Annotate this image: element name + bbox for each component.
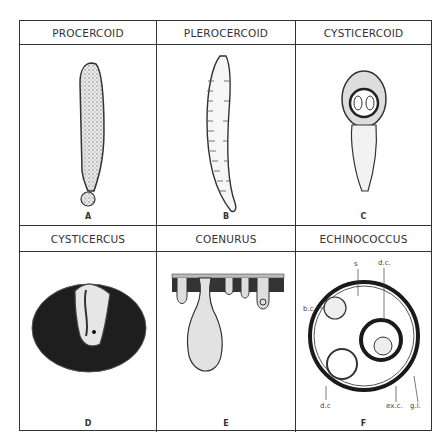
cysticercoid-illustration [296, 21, 431, 226]
larval-stages-figure: PROCERCOID A PLEROCERCOID [19, 20, 432, 431]
label-dc-top: d.c. [378, 259, 391, 267]
panel-plerocercoid: PLEROCERCOID B [157, 21, 296, 226]
label-bc: b.c [303, 305, 314, 313]
panel-echinococcus: ECHINOCOCCUS s d.c. b.c d.c ex.c. g.l. F [296, 226, 431, 432]
label-exc: ex.c. [386, 402, 403, 410]
panel-cysticercoid: CYSTICERCOID C [296, 21, 431, 226]
label-dc-bottom: d.c [320, 402, 331, 410]
panel-letter: B [157, 212, 295, 221]
panel-letter: C [296, 212, 431, 221]
label-gl: g.l. [410, 402, 421, 410]
cysticercus-illustration [20, 226, 157, 432]
panel-letter: E [157, 419, 295, 428]
panel-coenurus: COENURUS E [157, 226, 296, 432]
procercoid-illustration [20, 21, 157, 226]
label-s: s [354, 260, 358, 268]
plerocercoid-illustration [157, 21, 296, 226]
coenurus-illustration [157, 226, 296, 432]
panel-letter: A [20, 212, 156, 221]
echinococcus-illustration: s d.c. b.c d.c ex.c. g.l. [296, 226, 431, 432]
panel-cysticercus: CYSTICERCUS D [20, 226, 157, 432]
panel-letter: D [20, 419, 156, 428]
panel-letter: F [296, 419, 431, 428]
panel-procercoid: PROCERCOID A [20, 21, 157, 226]
